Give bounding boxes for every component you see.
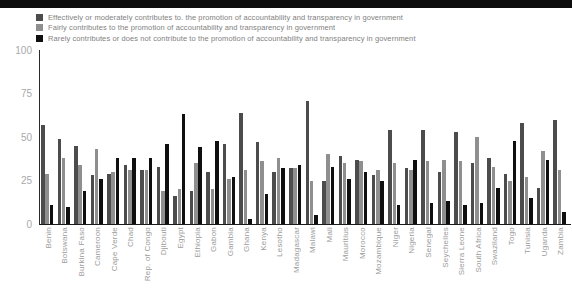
x-axis-label-text: Nigeria bbox=[407, 227, 416, 254]
bar-mali-series3 bbox=[331, 167, 335, 224]
bar-group-mali bbox=[322, 50, 339, 224]
bar-cameroon-series3 bbox=[99, 179, 103, 224]
x-axis-label-text: Tunisia bbox=[523, 227, 532, 254]
x-axis-label-rep-of-congo: Rep. of Congo bbox=[139, 227, 156, 305]
bar-benin-series3 bbox=[50, 205, 54, 224]
x-axis-label-text: Kenya bbox=[259, 227, 268, 251]
bar-group-lesotho bbox=[272, 50, 289, 224]
legend-label-fairly: Fairly contributes to the promotion of a… bbox=[48, 23, 335, 32]
bar-group-gabon bbox=[206, 50, 223, 224]
bar-sierra-leone-series3 bbox=[463, 205, 467, 224]
x-axis-label-kenya: Kenya bbox=[255, 227, 272, 305]
bar-burkina-faso-series3 bbox=[83, 191, 87, 224]
bar-group-mauritius bbox=[339, 50, 356, 224]
bar-rep-of-congo-series2 bbox=[145, 170, 149, 224]
x-axis-label-chad: Chad bbox=[123, 227, 140, 305]
bar-group-malawi bbox=[306, 50, 323, 224]
y-tick-label-25: 25 bbox=[0, 175, 32, 186]
x-axis-label-ethiopia: Ethiopia bbox=[189, 227, 206, 305]
legend-label-rarely: Rarely contributes or does not contribut… bbox=[48, 34, 416, 43]
bar-rep-of-congo-series3 bbox=[149, 158, 153, 224]
bar-seychelles-series2 bbox=[442, 160, 446, 224]
legend-swatch-rarely-icon bbox=[36, 35, 43, 42]
x-axis-label-uganda: Uganda bbox=[536, 227, 553, 305]
bar-morocco-series3 bbox=[364, 172, 368, 224]
bar-group-ghana bbox=[239, 50, 256, 224]
plot-area bbox=[39, 50, 571, 225]
x-axis-label-text: Uganda bbox=[540, 227, 549, 256]
bar-nigeria-series3 bbox=[413, 160, 417, 224]
bar-group-morocco bbox=[355, 50, 372, 224]
x-axis-label-text: Djibouti bbox=[159, 227, 168, 255]
bar-south-africa-series2 bbox=[475, 137, 479, 224]
bar-tunisia-series3 bbox=[529, 198, 533, 224]
bar-ethiopia-series2 bbox=[194, 163, 198, 224]
bar-egypt-series1 bbox=[173, 196, 177, 224]
y-tick-label-50: 50 bbox=[0, 132, 32, 143]
bar-madagascar-series1 bbox=[289, 168, 293, 224]
bar-botswana-series2 bbox=[62, 158, 66, 224]
bar-zambia-series3 bbox=[562, 212, 566, 224]
bar-group-madagascar bbox=[289, 50, 306, 224]
bar-gabon-series1 bbox=[206, 172, 210, 224]
x-axis-label-text: Ghana bbox=[242, 227, 251, 252]
bar-group-kenya bbox=[256, 50, 273, 224]
x-axis-label-madagascar: Madagascar bbox=[288, 227, 305, 305]
bar-mali-series2 bbox=[326, 154, 330, 224]
bar-group-togo bbox=[504, 50, 521, 224]
legend-item-effectively: Effectively or moderately contributes to… bbox=[36, 12, 416, 22]
bar-group-swaziland bbox=[487, 50, 504, 224]
x-axis-label-mali: Mali bbox=[321, 227, 338, 305]
x-axis-label-text: Lesotho bbox=[275, 227, 284, 257]
bar-group-niger bbox=[388, 50, 405, 224]
x-axis-label-text: Morocco bbox=[358, 227, 367, 259]
bar-malawi-series3 bbox=[314, 215, 318, 224]
x-axis-label-text: Gambia bbox=[226, 227, 235, 256]
bar-egypt-series2 bbox=[178, 189, 182, 224]
x-axis-label-text: Sierra Leone bbox=[457, 227, 466, 275]
bar-swaziland-series2 bbox=[492, 167, 496, 224]
bar-benin-series1 bbox=[41, 125, 45, 224]
bar-burkina-faso-series1 bbox=[74, 146, 78, 224]
bar-nigeria-series1 bbox=[405, 168, 409, 224]
bar-kenya-series3 bbox=[265, 194, 269, 224]
bar-malawi-series1 bbox=[306, 101, 310, 225]
bar-morocco-series1 bbox=[355, 160, 359, 224]
x-axis-label-burkina-faso: Burkina Faso bbox=[73, 227, 90, 305]
bar-niger-series3 bbox=[397, 205, 401, 224]
bar-ghana-series2 bbox=[244, 170, 248, 224]
bar-djibouti-series2 bbox=[161, 191, 165, 224]
x-axis-label-text: Malawi bbox=[308, 227, 317, 253]
bar-ghana-series3 bbox=[248, 219, 252, 224]
bar-swaziland-series1 bbox=[487, 158, 491, 224]
bar-group-rep-of-congo bbox=[140, 50, 157, 224]
x-axis-label-text: Cameroon bbox=[93, 227, 102, 266]
bar-gambia-series3 bbox=[232, 177, 236, 224]
x-axis-label-gambia: Gambia bbox=[222, 227, 239, 305]
x-axis-label-botswana: Botswana bbox=[57, 227, 74, 305]
legend-swatch-fairly-icon bbox=[36, 24, 43, 31]
bar-senegal-series2 bbox=[426, 161, 430, 224]
bar-group-seychelles bbox=[438, 50, 455, 224]
x-axis-label-text: Seychelles bbox=[441, 227, 450, 268]
x-axis-label-text: South Africa bbox=[474, 227, 483, 273]
bar-kenya-series2 bbox=[260, 161, 264, 224]
bar-benin-series2 bbox=[45, 174, 49, 225]
bar-mozambique-series1 bbox=[372, 175, 376, 224]
y-axis-tick-labels: 0255075100 bbox=[0, 0, 32, 240]
x-axis-label-text: Rep. of Congo bbox=[143, 227, 152, 281]
bar-south-africa-series3 bbox=[480, 203, 484, 224]
x-axis-labels: BeninBotswanaBurkina FasoCameroonCape Ve… bbox=[40, 227, 571, 307]
bar-group-south-africa bbox=[471, 50, 488, 224]
bar-botswana-series3 bbox=[66, 207, 70, 224]
bar-group-nigeria bbox=[405, 50, 422, 224]
legend: Effectively or moderately contributes to… bbox=[36, 12, 416, 44]
bar-swaziland-series3 bbox=[496, 188, 500, 225]
bar-group-mozambique bbox=[372, 50, 389, 224]
x-axis-label-cameroon: Cameroon bbox=[90, 227, 107, 305]
bar-chad-series2 bbox=[128, 170, 132, 224]
x-axis-label-sierra-leone: Sierra Leone bbox=[453, 227, 470, 305]
bar-niger-series2 bbox=[393, 163, 397, 224]
bar-ethiopia-series1 bbox=[190, 191, 194, 224]
bar-sierra-leone-series1 bbox=[454, 132, 458, 224]
